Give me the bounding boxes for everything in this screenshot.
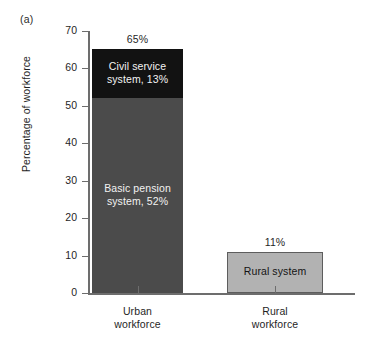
y-tick-50: 50 [82, 106, 89, 107]
y-tick-0: 0 [82, 293, 89, 294]
rural-cat-line2: workforce [252, 318, 298, 330]
y-tick-10: 10 [82, 256, 89, 257]
rural-cat-line1: Rural [262, 305, 288, 317]
x-axis-line [88, 293, 355, 295]
y-axis-title: Percentage of workforce [20, 34, 32, 194]
bar-total-label-rural: 11% [227, 236, 323, 248]
x-axis-label-rural-workforce: Rural workforce [210, 305, 340, 331]
y-tick-label-60: 60 [65, 61, 77, 73]
basic-label-line2: system, 52% [107, 195, 168, 207]
y-tick-30: 30 [82, 181, 89, 182]
y-tick-40: 40 [82, 143, 89, 144]
bar-segment-label-basic-pension-system: Basic pension system, 52% [92, 182, 183, 208]
x-axis-label-urban-workforce: Urban workforce [73, 305, 203, 331]
y-tick-label-20: 20 [65, 211, 77, 223]
civil-label-line2: system, 13% [107, 73, 168, 85]
y-tick-70: 70 [82, 31, 89, 32]
x-tick-rural [275, 286, 276, 293]
y-tick-label-30: 30 [65, 174, 77, 186]
x-tick-urban [138, 286, 139, 293]
y-tick-label-0: 0 [71, 286, 77, 298]
urban-cat-line2: workforce [114, 318, 160, 330]
urban-cat-line1: Urban [123, 305, 152, 317]
bar-segment-civil-service-system[interactable]: Civil service system, 13% [92, 49, 183, 98]
y-tick-label-40: 40 [65, 136, 77, 148]
basic-label-line1: Basic pension [104, 182, 171, 194]
figure-panel-a: (a) Percentage of workforce 70 60 50 40 … [0, 0, 375, 341]
bar-segment-basic-pension-system[interactable]: Basic pension system, 52% [92, 98, 183, 293]
civil-label-line1: Civil service [109, 60, 166, 72]
y-tick-label-50: 50 [65, 99, 77, 111]
bar-total-label-urban: 65% [92, 33, 183, 45]
y-tick-60: 60 [82, 68, 89, 69]
panel-letter: (a) [20, 13, 33, 25]
bar-segment-label-civil-service-system: Civil service system, 13% [92, 60, 183, 86]
rural-label-line1: Rural system [244, 265, 306, 277]
bar-segment-label-rural-system: Rural system [228, 265, 322, 278]
y-tick-label-70: 70 [65, 24, 77, 36]
bar-urban-workforce[interactable]: 65% Civil service system, 13% Basic pens… [92, 49, 183, 293]
plot-area: 70 60 50 40 30 20 10 0 65% Civil service… [88, 30, 355, 295]
y-tick-label-10: 10 [65, 249, 77, 261]
y-tick-20: 20 [82, 218, 89, 219]
